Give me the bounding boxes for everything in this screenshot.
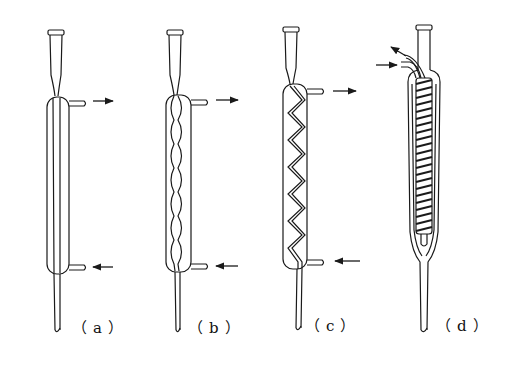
condenser-c — [283, 27, 324, 330]
outlet-port — [191, 100, 208, 105]
condenser-diagram — [0, 0, 505, 366]
top-lip — [283, 27, 299, 32]
label-c: （c） — [305, 314, 361, 335]
inner-tube — [53, 98, 60, 273]
bulb-tube-right — [178, 96, 182, 271]
upper-neck — [169, 35, 181, 95]
arrow-out-icon — [391, 47, 406, 56]
bulb-tube-left — [171, 96, 175, 271]
coil-windings — [416, 80, 432, 231]
top-lip — [416, 25, 432, 30]
stem-tip — [55, 328, 60, 332]
stem-tip — [421, 328, 427, 332]
top-lip — [167, 30, 183, 35]
condenser-d — [401, 25, 440, 332]
label-a: （a） — [72, 316, 129, 337]
stem — [296, 269, 302, 328]
outlet-port — [69, 101, 86, 106]
inlet-port — [69, 265, 86, 270]
label-d: （d） — [436, 314, 494, 335]
condenser-b — [166, 30, 208, 332]
top-lip — [48, 30, 64, 35]
stem — [175, 272, 180, 330]
spiral-tube-outer — [288, 86, 302, 269]
upper-neck — [285, 32, 297, 84]
label-b: （b） — [188, 316, 246, 337]
inlet-port — [307, 260, 324, 265]
jacket — [47, 97, 69, 274]
outlet-port — [307, 89, 324, 94]
upper-neck — [50, 35, 62, 96]
stem-tip — [296, 326, 301, 330]
stem-tip — [176, 328, 180, 332]
drip-tip — [421, 234, 427, 246]
stem — [54, 274, 60, 330]
inlet-port — [191, 264, 208, 269]
condenser-a — [47, 30, 86, 332]
upper-neck — [418, 30, 430, 70]
